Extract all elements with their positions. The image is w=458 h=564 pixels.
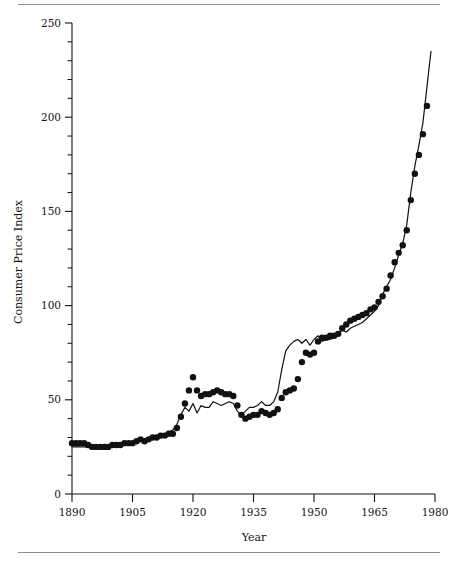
data-point	[400, 242, 406, 248]
data-point	[416, 152, 422, 158]
x-tick-label: 1905	[119, 506, 146, 518]
data-point	[279, 395, 285, 401]
data-point	[295, 376, 301, 382]
data-point	[371, 304, 377, 310]
x-axis-tick-labels: 1890190519201935195019651980	[59, 506, 449, 518]
y-tick-label: 250	[41, 17, 61, 29]
data-point	[275, 406, 281, 412]
x-axis-title: Year	[241, 531, 267, 544]
data-point	[230, 393, 236, 399]
data-point	[379, 293, 385, 299]
data-point	[291, 385, 297, 391]
x-tick-label: 1980	[422, 506, 449, 518]
data-point	[194, 387, 200, 393]
cpi-line-scatter-chart: 050100150200250 189019051920193519501965…	[0, 0, 458, 564]
axes	[65, 23, 435, 502]
y-axis-title: Consumer Price Index	[12, 199, 25, 324]
data-point	[186, 387, 192, 393]
figure-root: 050100150200250 189019051920193519501965…	[0, 0, 458, 564]
y-axis-major-ticks	[65, 23, 72, 494]
y-tick-label: 200	[41, 111, 61, 123]
y-tick-label: 150	[41, 205, 61, 217]
y-axis-tick-labels: 050100150200250	[41, 17, 61, 500]
x-axis-major-ticks	[72, 494, 435, 502]
x-tick-label: 1890	[59, 506, 86, 518]
y-tick-label: 100	[41, 299, 61, 311]
data-point	[383, 285, 389, 291]
data-point	[404, 227, 410, 233]
data-point	[234, 402, 240, 408]
data-point	[170, 431, 176, 437]
data-point	[424, 103, 430, 109]
data-point	[299, 359, 305, 365]
x-tick-label: 1920	[180, 506, 207, 518]
data-point	[408, 197, 414, 203]
y-tick-label: 0	[54, 488, 61, 500]
data-point	[311, 350, 317, 356]
series-line-layer	[72, 51, 431, 447]
data-point	[420, 131, 426, 137]
x-tick-label: 1950	[301, 506, 328, 518]
x-tick-label: 1965	[361, 506, 388, 518]
data-point	[178, 414, 184, 420]
data-point	[190, 374, 196, 380]
data-point	[335, 331, 341, 337]
data-point	[375, 299, 381, 305]
series-point-layer	[69, 103, 430, 450]
data-point	[391, 259, 397, 265]
y-tick-label: 50	[48, 393, 61, 405]
data-point	[387, 272, 393, 278]
y-axis-minor-ticks	[68, 42, 73, 475]
data-point	[182, 400, 188, 406]
data-point	[396, 250, 402, 256]
data-point	[174, 425, 180, 431]
x-tick-label: 1935	[240, 506, 267, 518]
series-line-fitted	[72, 51, 431, 447]
data-point	[412, 171, 418, 177]
